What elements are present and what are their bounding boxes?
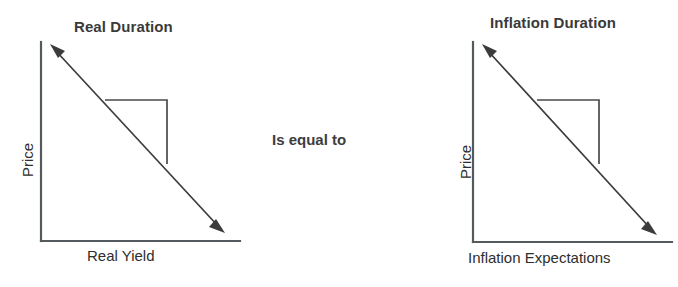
inflation-duration-slope-step-marker bbox=[537, 100, 599, 164]
real-duration-plot bbox=[0, 0, 300, 287]
is-equal-to-connector-text: Is equal to bbox=[272, 131, 346, 148]
real-duration-panel: Real Duration Price Real Yield bbox=[0, 0, 300, 287]
inflation-duration-plot bbox=[432, 0, 678, 287]
inflation-duration-price-expectations-line bbox=[488, 51, 650, 228]
inflation-duration-arrowhead-up-left bbox=[482, 44, 497, 58]
inflation-duration-arrowhead-down-right bbox=[641, 221, 657, 235]
real-duration-price-yield-line bbox=[56, 51, 218, 226]
inflation-duration-panel: Inflation Duration Price Inflation Expec… bbox=[432, 0, 678, 287]
real-duration-arrowhead-down-right bbox=[209, 219, 225, 233]
duration-equivalence-diagram: Real Duration Price Real Yield Is equal … bbox=[0, 0, 678, 287]
real-duration-arrowhead-up-left bbox=[50, 44, 65, 58]
real-duration-slope-step-marker bbox=[105, 100, 167, 164]
